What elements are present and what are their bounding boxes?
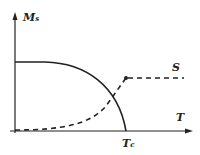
y-axis-label: Ms	[23, 12, 39, 23]
y-axis	[13, 12, 18, 133]
curve-label-s: S	[172, 62, 180, 73]
entropy-curve	[15, 78, 126, 130]
magnetization-curve	[15, 62, 126, 131]
x-axis-label: T	[176, 112, 184, 123]
transition-point	[124, 76, 128, 80]
critical-temperature-label: Tc	[122, 138, 134, 149]
